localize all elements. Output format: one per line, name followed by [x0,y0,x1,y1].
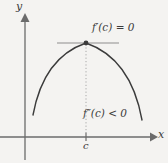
first-derivative-annotation: f′(c) = 0 [92,22,135,33]
second-derivative-text: f″(c) < 0 [83,107,127,119]
x-axis-label: x [158,129,164,140]
figure-canvas [0,0,168,163]
first-derivative-text: f′(c) = 0 [92,21,135,33]
y-axis-arrow-icon [21,13,30,22]
second-derivative-annotation: f″(c) < 0 [83,108,127,119]
x-axis-arrow-icon [150,133,158,142]
y-axis-label: y [16,1,22,12]
critical-point-dot [84,41,89,46]
calculus-figure: y x c f′(c) = 0 f″(c) < 0 [0,0,168,163]
x-axis-tick-label-c: c [83,141,89,151]
